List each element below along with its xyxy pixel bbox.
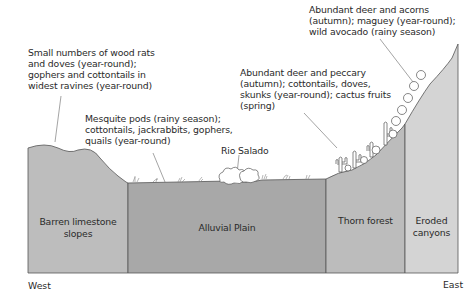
direction-east: East <box>443 279 463 290</box>
annotation-alluvial: Mesquite pods (rainy season); cottontail… <box>85 113 233 146</box>
leader-west <box>55 96 61 142</box>
annotation-river: Rio Salado <box>221 145 269 156</box>
annotation-thorn-forest: Abundant deer and peccary (autumn); cott… <box>240 67 391 111</box>
zone-eroded-canyons <box>405 44 458 273</box>
river-shrubs-icon <box>219 167 259 184</box>
annotation-west-slopes: Small numbers of wood rats and doves (ye… <box>28 47 155 91</box>
annotation-upper-slope: Abundant deer and acorns (autumn); mague… <box>309 4 456 37</box>
direction-west: West <box>28 280 51 291</box>
zone-thorn-forest <box>326 124 405 273</box>
zone-label-alluvial: Alluvial Plain <box>128 222 326 234</box>
zone-label-eroded: Eroded canyons <box>405 215 458 238</box>
zone-label-thorn: Thorn forest <box>326 215 405 227</box>
zone-barren-limestone <box>28 145 128 273</box>
zone-label-barren: Barren limestone slopes <box>28 216 128 239</box>
leader-thorn <box>304 113 337 148</box>
leader-alluvial <box>153 153 165 182</box>
